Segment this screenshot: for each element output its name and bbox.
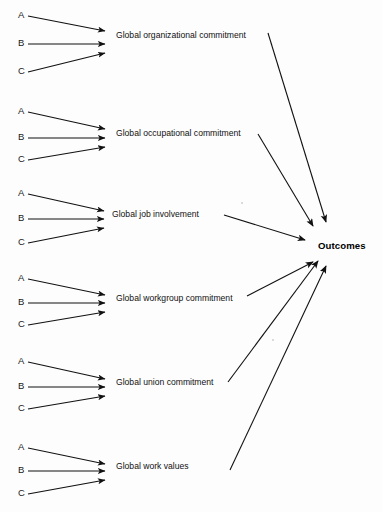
indicator-label-c-group-5: C	[18, 403, 25, 413]
construct-label-global-job-involvement: Global job involvement	[112, 210, 199, 219]
outcome-arrow-from-work-values	[230, 266, 326, 470]
indicator-arrows-group-1	[28, 16, 105, 72]
construct-label-global-occupational-commitment: Global occupational commitment	[116, 129, 241, 138]
indicator-label-a-group-6: A	[18, 442, 25, 452]
indicator-label-b-group-4: B	[18, 297, 25, 307]
indicator-label-a-group-4: A	[18, 273, 25, 283]
indicator-label-c-group-6: C	[18, 488, 25, 498]
indicator-label-c-group-3: C	[18, 237, 25, 247]
indicator-arrows-group-3	[28, 194, 104, 243]
scan-speck	[241, 202, 243, 204]
outcome-arrow-from-job-involvement	[224, 215, 305, 240]
indicator-label-a-group-1: A	[18, 10, 25, 20]
indicator-label-c-group-2: C	[18, 154, 25, 164]
construct-label-global-union-commitment: Global union commitment	[116, 378, 213, 387]
indicator-label-c-group-4: C	[18, 319, 25, 329]
diagram-canvas-root: A B C Global organizational commitment A…	[0, 0, 382, 512]
indicator-label-a-group-5: A	[18, 356, 25, 366]
indicator-label-b-group-5: B	[18, 381, 25, 391]
outcome-arrow-from-workgroup-commitment	[247, 262, 313, 296]
construct-label-global-work-values: Global work values	[116, 462, 189, 471]
outcome-node-label: Outcomes	[318, 241, 366, 251]
outcome-arrow-from-occupational-commitment	[258, 134, 313, 226]
construct-label-global-organizational-commitment: Global organizational commitment	[116, 31, 246, 40]
diagram-vector-layer	[0, 0, 382, 512]
indicator-arrows-group-2	[28, 112, 105, 160]
indicator-label-a-group-3: A	[18, 188, 25, 198]
construct-label-global-workgroup-commitment: Global workgroup commitment	[116, 294, 233, 303]
indicator-label-c-group-1: C	[18, 66, 25, 76]
indicator-arrows-group-4	[28, 279, 105, 325]
indicator-label-b-group-6: B	[18, 465, 25, 475]
scan-speck	[272, 339, 274, 341]
indicator-arrows-group-5	[28, 362, 105, 409]
indicator-label-b-group-2: B	[18, 132, 25, 142]
indicator-label-a-group-2: A	[18, 106, 25, 116]
outcome-arrow-from-organizational-commitment	[268, 33, 326, 222]
outcome-arrow-from-union-commitment	[228, 261, 318, 382]
indicator-arrows-group-6	[28, 448, 105, 494]
indicator-label-b-group-3: B	[18, 213, 25, 223]
indicator-label-b-group-1: B	[18, 38, 25, 48]
